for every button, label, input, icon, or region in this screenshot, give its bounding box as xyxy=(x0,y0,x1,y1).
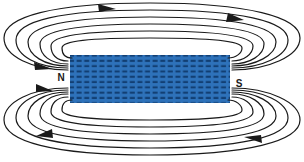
magnet-body xyxy=(70,55,230,103)
south-pole-label: S xyxy=(236,78,243,89)
diagram-canvas: N S xyxy=(0,0,304,162)
north-pole-label: N xyxy=(57,72,64,83)
magnetic-field-diagram: N S xyxy=(0,0,304,162)
